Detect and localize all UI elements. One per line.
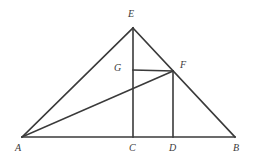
vertex-label-C: C [129, 143, 136, 153]
vertex-label-D: D [169, 143, 176, 153]
vertex-label-E: E [128, 9, 134, 19]
segment-layer [22, 28, 235, 137]
geometry-diagram: A B C D E F G [0, 0, 257, 163]
figure-svg [0, 0, 257, 163]
vertex-label-A: A [15, 143, 21, 153]
side-AE [22, 28, 133, 137]
vertex-label-G: G [114, 63, 121, 73]
horizontal-GF [133, 70, 173, 71]
vertex-label-F: F [180, 60, 186, 70]
vertex-label-B: B [233, 143, 239, 153]
cevian-AF [22, 71, 173, 137]
